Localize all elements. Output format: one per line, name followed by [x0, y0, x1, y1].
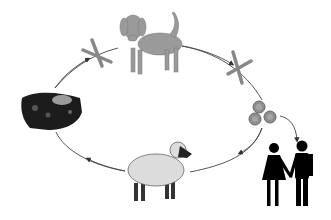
- sheep-icon: [128, 142, 192, 201]
- life-cycle-diagram: [0, 0, 331, 220]
- dog-icon: [120, 12, 182, 74]
- arrow-sheep-to-tissue: [56, 132, 125, 171]
- eggs-icon: [249, 101, 276, 125]
- arrow-eggs-to-sheep: [190, 128, 262, 172]
- people-icon: [262, 141, 313, 207]
- arrow-tissue-to-dog: [55, 48, 118, 88]
- arrow-dog-to-eggs: [182, 46, 262, 100]
- cross-marker-icon: [228, 52, 251, 83]
- cross-marker-icon: [83, 40, 111, 66]
- tissue-icon: [21, 93, 82, 130]
- arrow-eggs-to-humans: [280, 116, 297, 140]
